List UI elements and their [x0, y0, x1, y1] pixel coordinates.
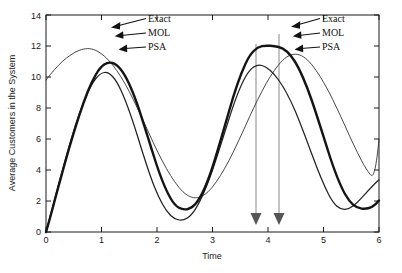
- annotation-group-left: Exact MOL PSA: [111, 13, 171, 52]
- y-axis-title: Average Customers in the System: [7, 55, 17, 191]
- y-tick-labels: 0 2 4 6 8 10 12 14: [31, 11, 41, 237]
- annotation-label-exact-right: Exact: [322, 13, 345, 24]
- chart-figure: 0 1 2 3 4 5 6 0 2 4 6 8 10 12 14 Time Av…: [0, 0, 402, 273]
- annotation-leader-mol-right: [293, 31, 320, 39]
- series-exact-line: [46, 46, 379, 232]
- x-tick-label: 5: [321, 235, 326, 245]
- y-tick-label: 10: [31, 72, 41, 82]
- x-tick-labels: 0 1 2 3 4 5 6: [43, 235, 381, 245]
- annotation-label-mol-right: MOL: [322, 27, 344, 38]
- annotation-label-exact-left: Exact: [148, 13, 171, 24]
- annotation-label-psa-right: PSA: [322, 41, 341, 52]
- annotation-leader-mol-left: [115, 31, 146, 39]
- annotation-leader-psa-right: [295, 45, 321, 53]
- x-tick-label: 1: [99, 235, 104, 245]
- y-tick-label: 0: [36, 227, 41, 237]
- y-tick-label: 4: [36, 165, 41, 175]
- series-psa-line: [46, 49, 379, 198]
- y-tick-label: 6: [36, 134, 41, 144]
- x-tick-label: 4: [265, 235, 270, 245]
- peak-marker-lines: [251, 34, 285, 225]
- x-axis-title: Time: [202, 251, 222, 261]
- annotation-label-psa-left: PSA: [148, 41, 167, 52]
- exact-peak-marker: [274, 34, 285, 225]
- annotation-label-mol-left: MOL: [148, 27, 170, 38]
- annotation-group-right: Exact MOL PSA: [291, 13, 345, 52]
- annotation-leader-exact-right: [291, 19, 320, 29]
- y-tick-label: 2: [36, 196, 41, 206]
- chart-svg: 0 1 2 3 4 5 6 0 2 4 6 8 10 12 14 Time Av…: [0, 0, 402, 273]
- y-tick-label: 14: [31, 11, 41, 21]
- series-mol-line: [46, 65, 379, 232]
- annotation-leader-exact-left: [111, 19, 146, 30]
- y-tick-label: 12: [31, 41, 41, 51]
- x-tick-label: 2: [154, 235, 159, 245]
- x-tick-label: 0: [43, 235, 48, 245]
- x-tick-label: 3: [210, 235, 215, 245]
- x-tick-label: 6: [376, 235, 381, 245]
- annotation-leader-psa-left: [119, 45, 147, 53]
- psa-peak-marker: [251, 44, 262, 225]
- y-tick-label: 8: [36, 103, 41, 113]
